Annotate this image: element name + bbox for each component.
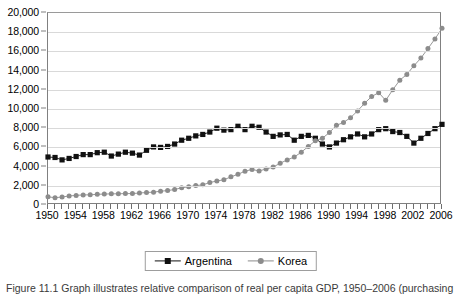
y-axis-tick [41, 88, 46, 89]
y-axis-tick [41, 165, 46, 166]
data-point-circle [327, 130, 332, 135]
x-axis-tick-label: 1994 [345, 209, 368, 222]
x-axis-tick [138, 204, 139, 209]
data-point-circle [418, 56, 423, 61]
data-point-circle [425, 46, 430, 51]
y-axis-tick-label: 20,000 [7, 7, 39, 18]
data-point-circle [207, 180, 212, 185]
data-point-square [348, 134, 353, 139]
x-axis-tick [146, 204, 147, 209]
square-marker-icon [155, 256, 181, 266]
data-point-circle [95, 192, 100, 197]
data-point-circle [165, 188, 170, 193]
x-axis-tick [209, 204, 210, 209]
data-point-circle [313, 138, 318, 143]
gridline [48, 32, 440, 33]
x-axis-tick-label: 1962 [120, 209, 143, 222]
data-point-circle [257, 168, 262, 173]
data-point-circle [137, 191, 142, 196]
x-axis-tick [96, 204, 97, 209]
data-point-circle [250, 167, 255, 172]
data-point-square [130, 151, 135, 156]
y-axis-tick [41, 146, 46, 147]
data-point-circle [144, 190, 149, 195]
data-point-circle [440, 26, 445, 31]
data-point-circle [53, 195, 58, 200]
data-point-circle [404, 72, 409, 77]
x-axis-tick [153, 204, 154, 209]
data-point-square [425, 131, 430, 136]
data-point-circle [432, 36, 437, 41]
x-axis-tick [307, 204, 308, 209]
data-point-circle [235, 172, 240, 177]
data-point-circle [411, 63, 416, 68]
x-axis-tick [272, 204, 273, 209]
x-axis-tick [371, 204, 372, 209]
data-point-square [179, 138, 184, 143]
x-axis-tick [131, 204, 132, 209]
y-axis-tick [41, 50, 46, 51]
y-axis-tick-label: 4,000 [13, 160, 39, 171]
data-point-square [95, 150, 100, 155]
x-axis-tick [61, 204, 62, 209]
x-axis-tick [195, 204, 196, 209]
x-axis-tick [251, 204, 252, 209]
data-point-circle [46, 194, 51, 199]
data-point-square [186, 136, 191, 141]
data-point-circle [214, 179, 219, 184]
data-point-circle [67, 193, 72, 198]
x-axis-tick [350, 204, 351, 209]
x-axis-tick [335, 204, 336, 209]
x-axis-tick [47, 204, 48, 209]
x-axis-tick [392, 204, 393, 209]
data-point-circle [130, 191, 135, 196]
y-axis-tick-label: 8,000 [13, 122, 39, 133]
x-axis-tick [82, 204, 83, 209]
data-point-circle [278, 161, 283, 166]
data-point-square [355, 131, 360, 136]
data-point-circle [285, 157, 290, 162]
x-axis-tick [420, 204, 421, 209]
x-axis-tick-label: 1998 [373, 209, 396, 222]
data-point-square [411, 140, 416, 145]
x-axis-tick [364, 204, 365, 209]
data-point-square [116, 152, 121, 157]
data-point-circle [299, 150, 304, 155]
y-axis-tick [41, 12, 46, 13]
x-axis-tick [399, 204, 400, 209]
data-point-square [207, 129, 212, 134]
x-axis-tick [258, 204, 259, 209]
x-axis-tick-label: 1966 [148, 209, 171, 222]
data-point-square [292, 138, 297, 143]
x-axis-tick [237, 204, 238, 209]
data-point-circle [116, 191, 121, 196]
y-axis-tick-label: 0 [33, 199, 39, 210]
data-point-square [74, 154, 79, 159]
data-point-circle [60, 195, 65, 200]
x-axis-tick [427, 204, 428, 209]
data-point-square [172, 141, 177, 146]
x-axis-tick [413, 204, 414, 209]
data-point-square [52, 155, 57, 160]
data-point-circle [243, 169, 248, 174]
data-point-circle [102, 192, 107, 197]
x-axis-tick [223, 204, 224, 209]
data-point-square [59, 157, 64, 162]
data-point-square [144, 148, 149, 153]
x-axis-tick [167, 204, 168, 209]
data-point-circle [151, 190, 156, 195]
x-axis-tick [343, 204, 344, 209]
y-axis-tick [41, 31, 46, 32]
x-axis-tick [181, 204, 182, 209]
x-axis-tick-label: 1990 [317, 209, 340, 222]
data-point-circle [81, 192, 86, 197]
gridline [48, 51, 440, 52]
data-point-circle [362, 101, 367, 106]
x-axis-tick [160, 204, 161, 209]
data-point-square [369, 131, 374, 136]
y-axis-tick-label: 2,000 [13, 179, 39, 190]
data-point-circle [334, 123, 339, 128]
data-point-square [200, 132, 205, 137]
gridline [48, 71, 440, 72]
x-axis-tick [328, 204, 329, 209]
